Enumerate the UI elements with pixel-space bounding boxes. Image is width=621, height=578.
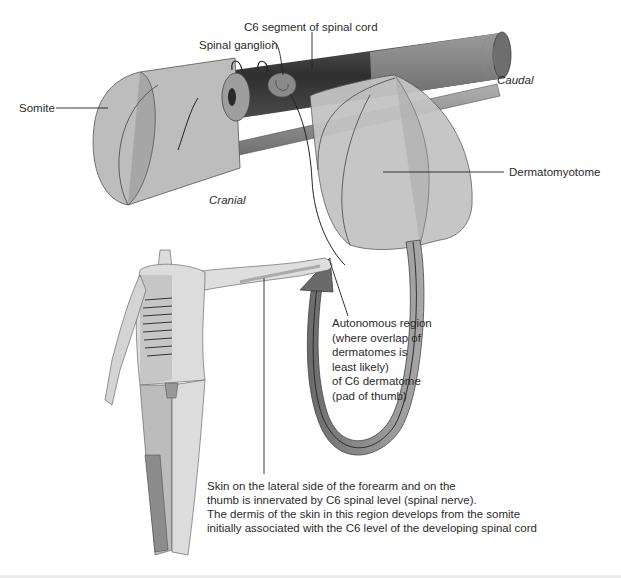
label-spinal-ganglion: Spinal ganglion [199,38,278,52]
label-dermatomyotome: Dermatomyotome [509,165,600,179]
label-c6-segment: C6 segment of spinal cord [244,20,378,34]
label-cranial: Cranial [209,193,245,207]
label-somite: Somite [19,101,55,115]
label-autonomous-region: Autonomous region (where overlap of derm… [332,316,432,403]
label-caudal: Caudal [497,73,533,87]
somite-shape [93,58,240,205]
caption-skin-innervation: Skin on the lateral side of the forearm … [207,479,537,535]
